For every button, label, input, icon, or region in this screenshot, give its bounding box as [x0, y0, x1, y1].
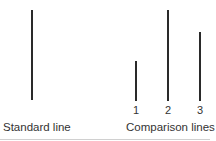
comparison-number-1: 1	[126, 104, 146, 116]
comparison-number-2: 2	[158, 104, 178, 116]
standard-line	[31, 10, 33, 100]
standard-line-caption: Standard line	[3, 121, 71, 133]
comparison-line-1	[135, 61, 137, 101]
comparison-line-3	[199, 32, 201, 101]
bottom-divider	[0, 139, 210, 140]
comparison-line-2	[167, 10, 169, 101]
comparison-number-3: 3	[190, 104, 210, 116]
comparison-lines-caption: Comparison lines	[126, 121, 215, 133]
